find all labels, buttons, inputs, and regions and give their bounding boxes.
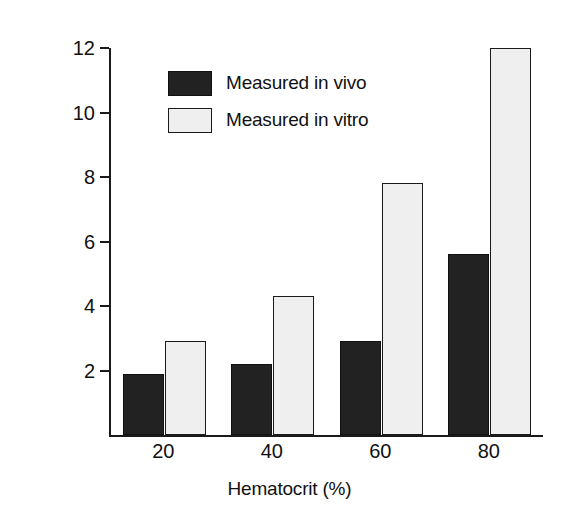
legend-label: Measured in vitro <box>226 109 368 131</box>
bar-measured-in-vitro-20 <box>165 341 206 435</box>
legend-item: Measured in vitro <box>168 107 368 133</box>
y-axis-tick <box>100 370 109 372</box>
bar-measured-in-vivo-60 <box>340 341 381 435</box>
x-axis-tick-label-20: 20 <box>152 440 174 463</box>
bar-measured-in-vitro-80 <box>490 48 531 435</box>
legend-item: Measured in vivo <box>168 70 368 96</box>
y-axis-tick-label: 4 <box>84 295 95 318</box>
y-axis-line <box>109 48 111 435</box>
bar-measured-in-vitro-60 <box>382 183 423 435</box>
y-axis-tick <box>100 176 109 178</box>
legend-swatch-light <box>168 108 212 133</box>
bar-measured-in-vivo-20 <box>123 374 164 435</box>
chart-figure: Viscosity (relative to water) 24681012 2… <box>0 0 579 519</box>
y-axis-tick <box>100 305 109 307</box>
bar-measured-in-vitro-40 <box>273 296 314 435</box>
x-axis-tick-label-40: 40 <box>261 440 283 463</box>
y-axis-tick <box>100 112 109 114</box>
y-axis-tick <box>100 47 109 49</box>
y-axis-tick-label: 12 <box>73 37 95 60</box>
y-axis-tick-label: 8 <box>84 166 95 189</box>
x-axis-tick-label-80: 80 <box>478 440 500 463</box>
x-axis-title: Hematocrit (%) <box>0 478 579 500</box>
y-axis-tick-label: 10 <box>73 101 95 124</box>
y-axis-tick-label: 2 <box>84 359 95 382</box>
x-axis-tick-label-60: 60 <box>369 440 391 463</box>
y-axis-tick <box>100 241 109 243</box>
x-axis-line <box>109 435 543 437</box>
bar-measured-in-vivo-40 <box>231 364 272 435</box>
bar-measured-in-vivo-80 <box>448 254 489 435</box>
legend-swatch-dark <box>168 71 212 96</box>
legend-label: Measured in vivo <box>226 72 366 94</box>
y-axis-tick-label: 6 <box>84 230 95 253</box>
chart-legend: Measured in vivoMeasured in vitro <box>168 70 368 144</box>
